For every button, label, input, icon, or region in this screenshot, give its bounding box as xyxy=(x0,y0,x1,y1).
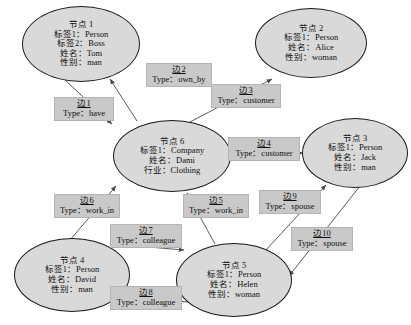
node-4-property: 性别：man xyxy=(51,285,93,295)
edge-type: Type：customer xyxy=(232,149,296,159)
edge-label-边10[interactable]: 边10Type：spouse xyxy=(291,227,353,251)
edge-type: Type：spouse xyxy=(263,202,317,212)
node-6[interactable]: 节点 6标签1：Company姓名：Dami行业：Clothing xyxy=(113,120,231,192)
graph-diagram: 节点 1标签1：Person标签2：Boss姓名：Tom性别：man节点 2标签… xyxy=(0,0,411,325)
node-2[interactable]: 节点 2标签1：Person姓名：Alice性别：woman xyxy=(255,8,367,78)
edge-type: Type：work_in xyxy=(58,206,116,216)
node-6-property: 行业：Clothing xyxy=(144,166,201,176)
node-3[interactable]: 节点 3标签1：Person姓名：Jack性别：man xyxy=(302,118,408,188)
edge-label-边9[interactable]: 边9Type：spouse xyxy=(259,190,321,214)
node-5-property: 性别：woman xyxy=(208,290,260,300)
edge-label-边2[interactable]: 边2Type：own_by xyxy=(146,63,212,87)
edge-line xyxy=(110,79,137,121)
edge-label-边3[interactable]: 边3Type：customer xyxy=(211,84,281,108)
node-1[interactable]: 节点 1标签1：Person标签2：Boss姓名：Tom性别：man xyxy=(22,6,140,82)
edge-type: Type：work_in xyxy=(187,206,245,216)
edge-type: Type：customer xyxy=(215,96,277,106)
edge-label-边4[interactable]: 边4Type：customer xyxy=(228,137,300,161)
edge-label-边6[interactable]: 边6Type：work_in xyxy=(54,194,120,218)
edge-type: Type：colleague xyxy=(114,298,178,308)
edge-label-边7[interactable]: 边7Type：colleague xyxy=(110,224,182,248)
edge-type: Type：spouse xyxy=(295,239,349,249)
node-5[interactable]: 节点 5标签1：Person姓名：Helen性别：woman xyxy=(176,243,292,317)
node-3-property: 性别：man xyxy=(334,163,376,173)
node-1-property: 性别：man xyxy=(60,58,102,68)
edge-type: Type：colleague xyxy=(114,236,178,246)
edge-label-边5[interactable]: 边5Type：work_in xyxy=(183,194,249,218)
edge-type: Type：own_by xyxy=(150,75,208,85)
edge-label-边8[interactable]: 边8Type：colleague xyxy=(110,286,182,310)
edge-label-边1[interactable]: 边1Type：have xyxy=(54,97,114,121)
node-2-property: 性别：woman xyxy=(285,53,337,63)
edge-type: Type：have xyxy=(58,109,110,119)
